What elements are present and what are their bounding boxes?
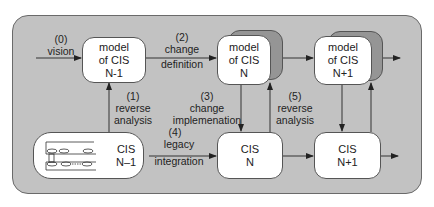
edge-text: vision	[44, 45, 78, 57]
node-label-line: N	[240, 67, 248, 80]
edge-text: reverse	[112, 102, 154, 114]
node-model-cis-n-plus-1: model of CIS N+1	[314, 36, 372, 85]
edge-text: definition	[152, 58, 212, 70]
edge-label-change-definition: (2) change definition	[152, 31, 212, 70]
node-cis-n: CIS N	[217, 132, 283, 179]
edge-text: change	[152, 43, 212, 55]
node-label-line: N	[246, 156, 254, 169]
node-label-line: N–1	[116, 156, 136, 169]
edge-text: change	[172, 102, 242, 114]
node-cis-n-minus-1: CIS N–1	[33, 132, 144, 179]
edge-text: analysis	[112, 114, 154, 126]
edge-number: (5)	[272, 90, 318, 102]
edge-number: (1)	[112, 90, 154, 102]
node-label-line: CIS	[117, 143, 135, 156]
node-label-line: model	[229, 41, 259, 54]
node-label-line: N+1	[337, 156, 358, 169]
edge-text: integration	[152, 155, 206, 167]
edge-number: (0)	[44, 33, 78, 45]
node-model-cis-n-minus-1: model of CIS N-1	[82, 37, 146, 83]
edge-text: implemenation	[172, 114, 242, 126]
edge-label-vision: (0) vision	[44, 33, 78, 57]
node-label-line: N-1	[105, 67, 123, 80]
node-cis-n-plus-1: CIS N+1	[314, 132, 381, 179]
node-model-cis-n: model of CIS N	[217, 35, 271, 85]
edge-number: (2)	[152, 31, 212, 43]
edge-text: analysis	[272, 114, 318, 126]
node-label-line: CIS	[338, 143, 356, 156]
edge-label-legacy-integration: (4) legacy integration	[152, 126, 206, 167]
node-label-line: of CIS	[99, 54, 130, 67]
edge-text: reverse	[272, 102, 318, 114]
edge-text: legacy	[152, 138, 206, 150]
edge-label-change-implementation: (3) change implemenation	[172, 90, 242, 126]
node-label-line: model	[328, 41, 358, 54]
node-label-line: CIS	[241, 143, 259, 156]
node-label-line: N+1	[333, 67, 354, 80]
edge-number: (4)	[144, 126, 206, 138]
edge-label-reverse-analysis-5: (5) reverse analysis	[272, 90, 318, 126]
edge-number: (3)	[172, 90, 242, 102]
node-label-line: of CIS	[229, 54, 260, 67]
node-label-line: model	[99, 41, 129, 54]
node-label-line: of CIS	[328, 54, 359, 67]
edge-label-reverse-analysis-1: (1) reverse analysis	[112, 90, 154, 126]
legacy-system-icon	[44, 140, 98, 172]
